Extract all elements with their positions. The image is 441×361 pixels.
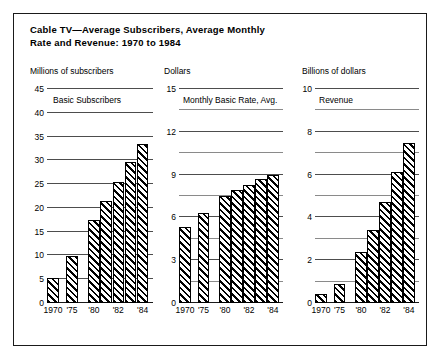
x-tick-label: '80 xyxy=(355,305,366,315)
y-tick-label: 45 xyxy=(35,84,44,94)
bar xyxy=(379,202,391,303)
x-axis: 1970'75'80'82'84 xyxy=(22,305,164,319)
y-tick-label: 15 xyxy=(167,84,176,94)
bar xyxy=(391,172,403,303)
x-tick-label: '84 xyxy=(267,305,278,315)
bar xyxy=(267,175,279,303)
y-tick-label: 25 xyxy=(35,179,44,189)
x-tick-label: '80 xyxy=(219,305,230,315)
bar xyxy=(47,278,59,303)
y-tick-label: 2 xyxy=(307,255,312,265)
y-axis-unit-label: Billions of dollars xyxy=(302,66,366,76)
bar xyxy=(125,162,137,303)
bar xyxy=(100,201,112,303)
bar xyxy=(355,252,367,303)
bar xyxy=(179,227,191,303)
plot-area: 051015202530354045 xyxy=(47,89,153,303)
y-tick-label: 40 xyxy=(35,108,44,118)
y-tick-label: 10 xyxy=(35,250,44,260)
y-tick-label: 3 xyxy=(171,255,176,265)
bar xyxy=(88,220,100,303)
x-tick-label: '82 xyxy=(379,305,390,315)
x-tick-label: '84 xyxy=(403,305,414,315)
y-tick-label: 30 xyxy=(35,155,44,165)
chart-panel-monthly-basic-rate: Dollars Monthly Basic Rate, Avg. 0369121… xyxy=(156,66,294,341)
plot-area: 03691215 xyxy=(179,89,283,303)
figure-title: Cable TV—Average Subscribers, Average Mo… xyxy=(30,23,410,49)
bar-group xyxy=(47,89,153,303)
x-tick-label: '75 xyxy=(66,305,77,315)
x-tick-label: '75 xyxy=(198,305,209,315)
y-tick-label: 9 xyxy=(171,170,176,180)
bar xyxy=(243,185,255,303)
bar xyxy=(113,182,125,303)
x-tick-label: '75 xyxy=(334,305,345,315)
x-tick-label: '82 xyxy=(243,305,254,315)
bar xyxy=(66,256,78,303)
y-tick-label: 6 xyxy=(307,170,312,180)
y-tick-label: 6 xyxy=(171,212,176,222)
chart-panel-basic-subscribers: Millions of subscribers Basic Subscriber… xyxy=(22,66,164,341)
y-axis-unit-label: Dollars xyxy=(164,66,190,76)
y-tick-label: 4 xyxy=(307,212,312,222)
x-tick-label: 1970 xyxy=(312,305,331,315)
bar xyxy=(403,143,415,304)
x-tick-label: 1970 xyxy=(44,305,63,315)
y-tick-label: 5 xyxy=(39,274,44,284)
x-axis: 1970'75'80'82'84 xyxy=(156,305,294,319)
x-tick-label: '84 xyxy=(137,305,148,315)
chart-panel-revenue: Billions of dollars Revenue 0246810 1970… xyxy=(294,66,428,341)
bar xyxy=(219,196,231,303)
figure-frame: Cable TV—Average Subscribers, Average Mo… xyxy=(13,13,427,346)
bar-group xyxy=(315,89,419,303)
y-tick-label: 8 xyxy=(307,127,312,137)
bar xyxy=(367,230,379,303)
y-tick-label: 12 xyxy=(167,127,176,137)
x-tick-label: '82 xyxy=(113,305,124,315)
x-tick-label: '80 xyxy=(88,305,99,315)
y-tick-label: 20 xyxy=(35,203,44,213)
bar-group xyxy=(179,89,283,303)
y-tick-label: 15 xyxy=(35,227,44,237)
y-axis-unit-label: Millions of subscribers xyxy=(30,66,114,76)
bar xyxy=(255,179,267,303)
x-tick-label: 1970 xyxy=(176,305,195,315)
bar xyxy=(198,213,210,303)
y-tick-label: 10 xyxy=(303,84,312,94)
x-axis: 1970'75'80'82'84 xyxy=(294,305,428,319)
bar xyxy=(334,284,346,303)
bar xyxy=(231,190,243,303)
y-tick-label: 35 xyxy=(35,132,44,142)
bar xyxy=(315,294,327,303)
plot-area: 0246810 xyxy=(315,89,419,303)
bar xyxy=(137,144,149,303)
